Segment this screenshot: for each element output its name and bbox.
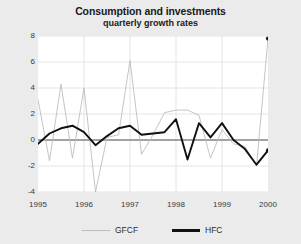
legend-item-hfc: HFC xyxy=(172,225,222,235)
chart-legend: GFCF HFC xyxy=(0,225,301,239)
x-axis-tick-label: 1997 xyxy=(110,201,150,209)
gridlines xyxy=(38,36,268,192)
x-axis-tick-label: 2000 xyxy=(248,201,288,209)
y-axis-tick-label: 8 xyxy=(21,32,35,40)
x-axis-tick-label: 1995 xyxy=(18,201,58,209)
y-axis-tick-label: -2 xyxy=(21,162,35,170)
chart-container: Consumption and investments quarterly gr… xyxy=(0,0,301,244)
x-axis-tick-label: 1999 xyxy=(202,201,242,209)
plot-svg xyxy=(38,36,268,192)
x-axis-tick-label: 1998 xyxy=(156,201,196,209)
legend-item-gfcf: GFCF xyxy=(82,225,138,235)
chart-title: Consumption and investments xyxy=(0,5,301,17)
y-axis-tick-label: -4 xyxy=(21,188,35,196)
chart-subtitle: quarterly growth rates xyxy=(0,18,301,28)
plot-area xyxy=(38,36,268,192)
y-axis-tick-label: 4 xyxy=(21,84,35,92)
legend-label-gfcf: GFCF xyxy=(115,225,138,235)
legend-swatch-gfcf-line-icon xyxy=(82,230,110,231)
y-axis-tick-label: 0 xyxy=(21,136,35,144)
legend-label-hfc: HFC xyxy=(205,225,222,235)
x-axis-tick-label: 1996 xyxy=(64,201,104,209)
y-axis-tick-label: 6 xyxy=(21,58,35,66)
legend-swatch-hfc-line-icon xyxy=(172,229,200,232)
y-axis-tick-label: 2 xyxy=(21,110,35,118)
